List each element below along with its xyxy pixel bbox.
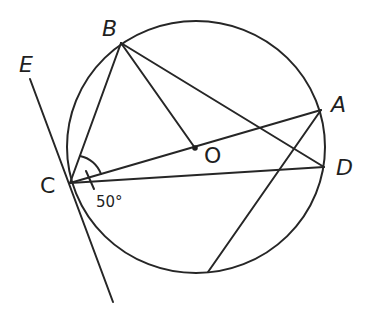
- label-o: O: [204, 143, 221, 168]
- label-c: C: [40, 173, 55, 198]
- segment-bo: [121, 43, 195, 148]
- segment-bc: [70, 43, 121, 183]
- chord-a-lower: [208, 110, 321, 272]
- geometry-diagram: B E A D C O 50°: [0, 0, 376, 315]
- label-b: B: [102, 16, 117, 41]
- angle-arc-bca: [80, 156, 101, 174]
- label-d: D: [336, 155, 353, 180]
- label-a: A: [329, 92, 346, 117]
- angle-value-label: 50°: [96, 193, 123, 211]
- segment-cd: [70, 167, 324, 183]
- angle-tick-mark: [86, 171, 94, 189]
- center-point-o: [192, 145, 198, 151]
- label-e: E: [19, 52, 33, 77]
